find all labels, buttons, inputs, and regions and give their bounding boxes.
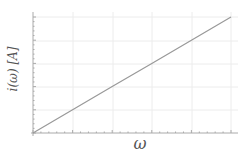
y-axis-label: i(ω) [A] <box>6 34 20 104</box>
data-line <box>33 17 231 133</box>
x-axis-label: ω <box>110 134 170 153</box>
